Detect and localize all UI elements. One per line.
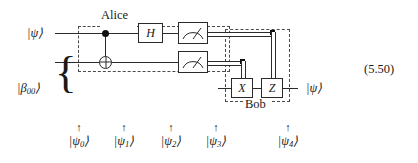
state-marker-tail: ⟩ — [84, 134, 89, 148]
classical-wire-to-x-gate — [241, 61, 246, 78]
state-marker-1: ↑ |ψ1⟩ — [105, 122, 143, 149]
state-marker-label: |ψ4⟩ — [269, 133, 307, 149]
bell-pair-brace: { — [55, 50, 77, 95]
state-marker-4: ↑ |ψ4⟩ — [269, 122, 307, 149]
measure-bottom-gate — [178, 51, 208, 73]
alice-region-top-border-left — [78, 26, 100, 27]
input-psi-label: |ψ⟩ — [27, 25, 43, 41]
state-marker-3: ↑ |ψ3⟩ — [197, 122, 235, 149]
state-marker-base: |ψ — [69, 134, 80, 148]
state-marker-base: |ψ — [161, 134, 172, 148]
bell-state-label: |β00⟩ — [17, 80, 40, 96]
state-marker-tail: ⟩ — [129, 134, 134, 148]
measure-top-gate — [178, 22, 208, 44]
alice-label: Alice — [99, 8, 130, 23]
state-marker-label: |ψ2⟩ — [152, 133, 190, 149]
bell-state-base: |β — [17, 81, 27, 95]
state-marker-arrow: ↑ — [105, 122, 143, 133]
state-marker-2: ↑ |ψ2⟩ — [152, 122, 190, 149]
bob-region-bottom-border-left — [225, 101, 243, 102]
state-marker-base: |ψ — [206, 134, 217, 148]
hadamard-gate: H — [138, 23, 163, 43]
state-marker-0: ↑ |ψ0⟩ — [60, 122, 98, 149]
state-marker-arrow: ↑ — [152, 122, 190, 133]
meter-icon — [179, 52, 207, 72]
pauli-x-gate: X — [231, 78, 253, 98]
bob-qubit-wire — [218, 88, 298, 89]
state-marker-label: |ψ0⟩ — [60, 133, 98, 149]
state-marker-base: |ψ — [114, 134, 125, 148]
meter-icon — [179, 23, 207, 43]
state-marker-tail: ⟩ — [221, 134, 226, 148]
classical-wire-to-z-gate — [271, 32, 276, 78]
state-marker-arrow: ↑ — [269, 122, 307, 133]
equation-number: (5.50) — [364, 62, 394, 77]
bob-region-bottom-border-right — [272, 101, 290, 102]
bob-label: Bob — [243, 97, 268, 112]
cnot-control-dot — [102, 30, 109, 37]
state-marker-label: |ψ1⟩ — [105, 133, 143, 149]
cnot-target-icon — [99, 56, 112, 69]
classical-wire-top-horizontal — [208, 32, 274, 37]
state-marker-tail: ⟩ — [176, 134, 181, 148]
state-marker-arrow: ↑ — [197, 122, 235, 133]
pauli-z-gate: Z — [261, 78, 283, 98]
state-marker-label: |ψ3⟩ — [197, 133, 235, 149]
state-marker-arrow: ↑ — [60, 122, 98, 133]
quantum-teleportation-circuit-figure: Alice Bob H X Z |ψ⟩ |β00⟩ — [0, 0, 418, 163]
state-marker-tail: ⟩ — [293, 134, 298, 148]
bell-state-tail: ⟩ — [35, 81, 40, 95]
output-psi-label: |ψ⟩ — [306, 80, 322, 96]
classical-wire-bottom-horizontal — [208, 61, 244, 66]
state-marker-base: |ψ — [278, 134, 289, 148]
bell-state-subscript: 00 — [27, 86, 36, 96]
